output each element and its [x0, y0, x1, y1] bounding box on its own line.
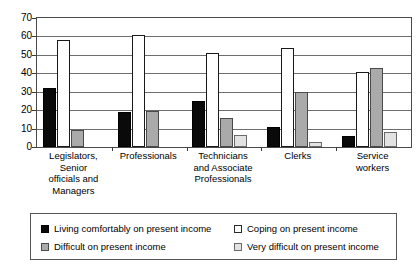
x-axis-category-label: Professionals — [111, 150, 186, 162]
bar — [71, 130, 84, 148]
category-label-line: Professionals — [186, 173, 261, 185]
bar-group — [261, 18, 336, 147]
bar — [309, 142, 322, 147]
category-label-line: and Associate — [186, 162, 261, 174]
bar — [342, 136, 355, 147]
y-axis-tick-label: 70 — [2, 13, 32, 23]
category-label-line: Technicians — [186, 150, 261, 162]
legend-item[interactable]: Difficult on present income — [41, 241, 166, 252]
bar — [220, 118, 233, 147]
y-axis-tick-label: 30 — [2, 87, 32, 97]
legend-item[interactable]: Living comfortably on present income — [41, 223, 211, 234]
bar-chart-figure: 706050403020100 Legislators,Senioroffici… — [0, 0, 420, 273]
bar — [370, 68, 383, 147]
legend-item-label: Difficult on present income — [54, 241, 166, 252]
gray-swatch — [41, 243, 49, 251]
chart-legend: Living comfortably on present incomeCopi… — [30, 213, 397, 260]
bar — [295, 92, 308, 147]
x-axis-category-label: Legislators,Seniorofficials andManagers — [36, 150, 111, 196]
bar-series-container — [37, 18, 411, 147]
category-label-line: workers — [335, 162, 410, 174]
y-axis-tick-label: 0 — [2, 142, 32, 152]
bar — [146, 111, 159, 147]
bar — [206, 53, 219, 147]
bar — [132, 35, 145, 147]
x-axis-category-label: Clerks — [260, 150, 335, 162]
bar — [57, 40, 70, 147]
legend-item-label: Coping on present income — [247, 223, 358, 234]
y-axis-tick-label: 10 — [2, 124, 32, 134]
bar — [384, 132, 397, 147]
y-axis-tick-label: 60 — [2, 31, 32, 41]
bar — [118, 112, 131, 147]
bar — [356, 72, 369, 147]
x-axis-category-label: Techniciansand AssociateProfessionals — [186, 150, 261, 185]
legend-item[interactable]: Very difficult on present income — [234, 241, 379, 252]
white-swatch — [234, 225, 242, 233]
legend-item[interactable]: Coping on present income — [234, 223, 358, 234]
category-label-line: Legislators, — [36, 150, 111, 162]
bar-group — [336, 18, 411, 147]
legend-item-label: Living comfortably on present income — [54, 223, 211, 234]
bar — [192, 101, 205, 147]
category-label-line: Managers — [36, 185, 111, 197]
x-axis-category-label: Serviceworkers — [335, 150, 410, 173]
y-axis-tick-label: 40 — [2, 68, 32, 78]
bar — [281, 48, 294, 148]
category-label-line: Professionals — [111, 150, 186, 162]
bar — [267, 127, 280, 147]
bar-group — [112, 18, 187, 147]
bar-group — [187, 18, 262, 147]
category-label-line: Service — [335, 150, 410, 162]
bar — [43, 88, 56, 147]
light-gray-swatch — [234, 243, 242, 251]
category-label-line: Senior — [36, 162, 111, 174]
x-axis-category-labels: Legislators,Seniorofficials andManagersP… — [36, 150, 412, 202]
bar — [234, 135, 247, 147]
y-axis-tick-label: 50 — [2, 50, 32, 60]
category-label-line: officials and — [36, 173, 111, 185]
bar-group — [37, 18, 112, 147]
y-axis-tick-label: 20 — [2, 105, 32, 115]
category-label-line: Clerks — [260, 150, 335, 162]
legend-item-label: Very difficult on present income — [247, 241, 379, 252]
black-swatch — [41, 225, 49, 233]
